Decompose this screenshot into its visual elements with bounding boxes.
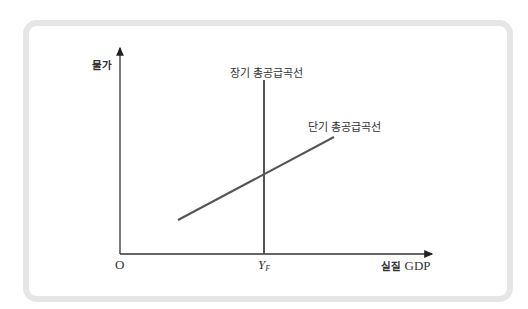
sras-curve bbox=[178, 137, 334, 220]
origin-label: O bbox=[115, 257, 124, 273]
y-axis-label: 물가 bbox=[92, 57, 112, 72]
lras-label: 장기 총공급곡선 bbox=[230, 64, 304, 80]
yf-label: YF bbox=[258, 257, 270, 273]
x-axis-label: 실질 GDP bbox=[381, 258, 431, 274]
sras-label: 단기 총공급곡선 bbox=[308, 118, 382, 134]
